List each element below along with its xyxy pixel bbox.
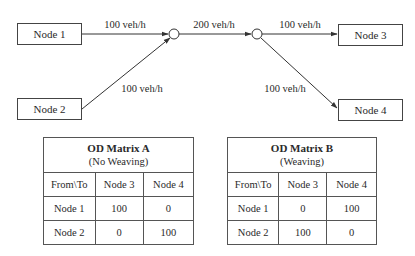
link-junction2-node4 xyxy=(261,38,337,108)
column-header: Node 3 xyxy=(95,173,143,197)
flow-label-node4: 100 veh/h xyxy=(264,83,306,94)
table-cell: 100 xyxy=(327,197,377,221)
node-3: Node 3 xyxy=(339,25,403,46)
row-header: Node 1 xyxy=(228,197,279,221)
column-header: Node 4 xyxy=(327,173,377,197)
column-header: Node 4 xyxy=(143,173,193,197)
table-subtitle: (No Weaving) xyxy=(44,155,193,168)
column-header: From\To xyxy=(228,173,279,197)
node-1-label: Node 1 xyxy=(33,28,65,40)
table-cell: 100 xyxy=(279,221,327,245)
node-4: Node 4 xyxy=(339,100,403,121)
network-diagram: Node 1 Node 2 Node 3 Node 4 100 veh/h 10… xyxy=(0,0,415,135)
row-header: Node 2 xyxy=(44,221,96,245)
node-2-label: Node 2 xyxy=(33,103,65,115)
table-row: Node 1 0 100 xyxy=(228,197,377,221)
table-cell: 0 xyxy=(95,221,143,245)
flow-label-node1: 100 veh/h xyxy=(104,19,146,30)
table-cell: 100 xyxy=(95,197,143,221)
table-row: Node 1 100 0 xyxy=(44,197,194,221)
od-matrix-b-table: OD Matrix B (Weaving) From\To Node 3 Nod… xyxy=(227,137,377,245)
table-row: Node 2 100 0 xyxy=(228,221,377,245)
link-node2-junction1 xyxy=(82,38,170,109)
flow-label-main: 200 veh/h xyxy=(193,19,235,30)
column-header: From\To xyxy=(44,173,96,197)
node-3-label: Node 3 xyxy=(354,29,387,41)
table-subtitle: (Weaving) xyxy=(228,155,376,168)
junction-1 xyxy=(169,29,179,39)
od-matrix-a-table: OD Matrix A (No Weaving) From\To Node 3 … xyxy=(43,137,194,245)
node-2: Node 2 xyxy=(18,99,82,120)
column-header: Node 3 xyxy=(279,173,327,197)
node-4-label: Node 4 xyxy=(354,104,387,116)
table-header-row: From\To Node 3 Node 4 xyxy=(228,173,377,197)
table-cell: 0 xyxy=(143,197,193,221)
node-1: Node 1 xyxy=(18,24,82,45)
table-row: Node 2 0 100 xyxy=(44,221,194,245)
row-header: Node 2 xyxy=(228,221,279,245)
table-title-cell: OD Matrix A (No Weaving) xyxy=(44,138,194,173)
table-title: OD Matrix A xyxy=(44,142,193,155)
table-title: OD Matrix B xyxy=(228,142,376,155)
table-header-row: From\To Node 3 Node 4 xyxy=(44,173,194,197)
table-title-cell: OD Matrix B (Weaving) xyxy=(228,138,377,173)
flow-label-node3: 100 veh/h xyxy=(279,19,321,30)
row-header: Node 1 xyxy=(44,197,96,221)
junction-2 xyxy=(252,29,262,39)
table-cell: 0 xyxy=(279,197,327,221)
table-cell: 0 xyxy=(327,221,377,245)
flow-label-node2: 100 veh/h xyxy=(121,83,163,94)
table-cell: 100 xyxy=(143,221,193,245)
